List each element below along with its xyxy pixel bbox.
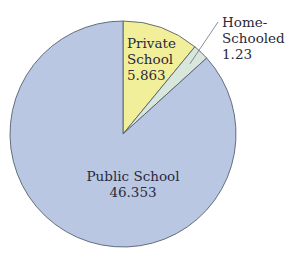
private-label-line1: Private: [127, 35, 176, 51]
public-label-line1: Public School: [78, 168, 188, 184]
home-value: 1.23: [222, 46, 285, 62]
public-value: 46.353: [78, 184, 188, 200]
private-value: 5.863: [127, 67, 176, 83]
private-school-label: Private School 5.863: [127, 35, 176, 83]
public-school-label: Public School 46.353: [78, 168, 188, 200]
home-label-line2: Schooled: [222, 30, 285, 46]
home-schooled-label: Home- Schooled 1.23: [222, 14, 285, 62]
home-label-line1: Home-: [222, 14, 285, 30]
private-label-line2: School: [127, 51, 176, 67]
